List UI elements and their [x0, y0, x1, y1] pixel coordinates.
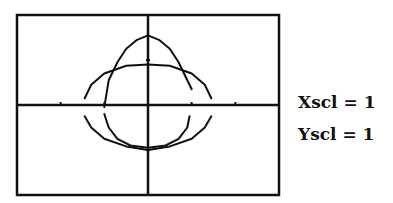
yscl-label: Yscl = 1 [298, 124, 374, 144]
xscl-label: Xscl = 1 [298, 92, 375, 112]
axes [17, 15, 279, 195]
